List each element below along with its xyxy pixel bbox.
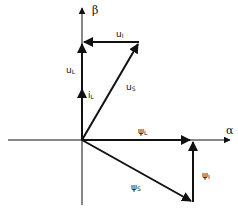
label-i-L: iL — [88, 90, 95, 100]
label-psi-I: ψI — [202, 170, 210, 180]
label-u-L: uL — [66, 65, 76, 75]
label-psi-S: ψS — [131, 182, 141, 192]
label-u-S: uS — [126, 82, 136, 92]
beta-label: β — [92, 4, 98, 17]
alpha-label: α — [226, 124, 234, 137]
label-u-I: uI — [116, 29, 124, 39]
label-psi-L: ψL — [138, 126, 148, 136]
vector-diagram: α β uI uL iL uS ψL ψI ψS — [0, 0, 238, 213]
